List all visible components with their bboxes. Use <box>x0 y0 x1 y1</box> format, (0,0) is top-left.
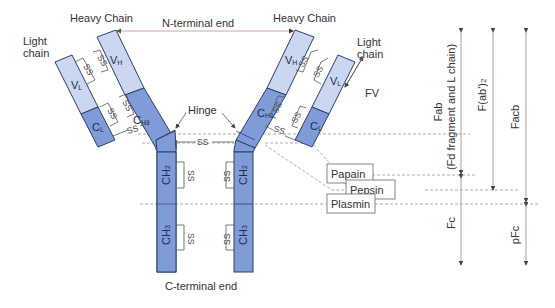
svg-text:SS: SS <box>222 233 232 245</box>
facb-label: Facb <box>509 105 521 129</box>
fv-label: FV <box>365 87 380 99</box>
svg-text:SS: SS <box>197 137 209 147</box>
svg-text:SS: SS <box>311 64 325 79</box>
heavy-chain-label-left: Heavy Chain <box>70 12 133 24</box>
light-chain-label-left-2: chain <box>23 47 49 59</box>
svg-text:SS: SS <box>186 233 196 245</box>
fab-sublabel: (Fd fragment and L chain) <box>445 44 457 170</box>
fragment-ranges: Fab (Fd fragment and L chain) F(ab')2 Fa… <box>432 32 526 265</box>
fc-label: Fc <box>445 216 457 229</box>
svg-text:SS: SS <box>222 170 232 182</box>
light-chain-label-right-1: Light <box>357 36 381 48</box>
fab-label: Fab <box>432 103 444 122</box>
svg-text:SS: SS <box>272 123 286 136</box>
light-chain-label-left-1: Light <box>23 35 47 47</box>
c-terminal-label: C-terminal end <box>165 280 237 292</box>
n-terminal-label: N-terminal end <box>162 17 234 29</box>
pfc-label: pFc <box>509 225 521 244</box>
svg-text:SS: SS <box>186 170 196 182</box>
plasmin-label: Plasmin <box>331 198 370 210</box>
svg-text:SS: SS <box>105 106 119 121</box>
light-chain-label-right-2: chain <box>357 48 383 60</box>
svg-text:SS: SS <box>289 110 303 125</box>
antibody-structure-diagram: VH CH1 VL CL VH CH1 VL CL CH2 CH3 CH2 CH… <box>0 0 555 308</box>
papain-label: Papain <box>331 168 365 180</box>
enzyme-labels: Papain Pepsin Plasmin <box>327 164 395 213</box>
svg-text:SS: SS <box>81 62 95 77</box>
fab2-label: F(ab')2 <box>476 78 488 111</box>
heavy-chain-label-right: Heavy Chain <box>273 12 336 24</box>
chain-labels: Heavy Chain Heavy Chain Light chain Ligh… <box>23 12 383 292</box>
domain-labels: VH CH1 VL CL VH CH1 VL CL CH2 CH3 CH2 CH… <box>71 54 341 245</box>
hinge-label: Hinge <box>188 104 217 116</box>
